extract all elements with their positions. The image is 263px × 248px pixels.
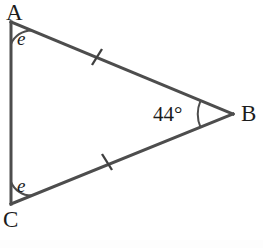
triangle-diagram-svg: [0, 0, 263, 248]
angle-label-vertex-b: 44°: [153, 104, 182, 125]
angle-arc-vertex-b: [198, 101, 201, 128]
angle-label-vertex-a: e: [17, 29, 25, 48]
vertex-label-c: C: [3, 208, 18, 231]
angle-label-vertex-c: e: [17, 176, 25, 195]
geometry-figure-canvas: A C B e e 44°: [0, 0, 263, 248]
vertex-label-b: B: [241, 102, 256, 125]
scan-artifact-strip: [0, 240, 263, 248]
vertex-label-a: A: [6, 1, 23, 24]
